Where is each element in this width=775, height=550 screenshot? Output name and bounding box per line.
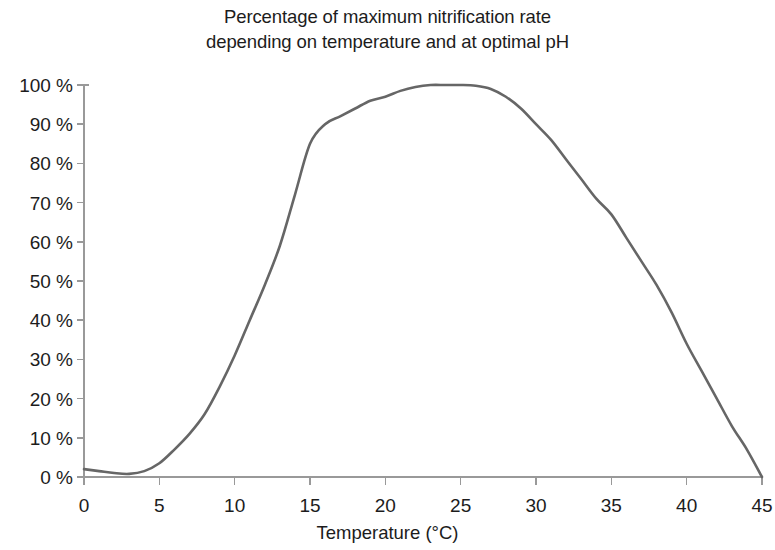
x-axis-tick-label: 0 <box>79 496 90 515</box>
x-axis-tick-labels: 051015202530354045 <box>0 0 775 550</box>
chart-container: Percentage of maximum nitrification rate… <box>0 0 775 550</box>
x-axis-title: Temperature (°C) <box>0 522 775 544</box>
x-axis-tick-label: 35 <box>601 496 622 515</box>
x-axis-tick-label: 40 <box>676 496 697 515</box>
x-axis-tick-label: 15 <box>299 496 320 515</box>
x-axis-tick-label: 30 <box>525 496 546 515</box>
x-axis-tick-label: 10 <box>224 496 245 515</box>
x-axis-tick-label: 25 <box>450 496 471 515</box>
x-axis-tick-label: 5 <box>154 496 165 515</box>
x-axis-tick-label: 20 <box>375 496 396 515</box>
x-axis-tick-label: 45 <box>751 496 772 515</box>
